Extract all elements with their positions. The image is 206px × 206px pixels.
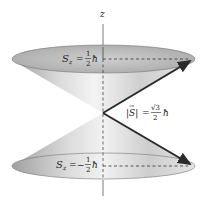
svg-text:S: S <box>62 53 69 64</box>
svg-text:−: − <box>77 160 85 170</box>
svg-text:=: = <box>69 160 77 170</box>
svg-text:1: 1 <box>86 50 90 58</box>
svg-text:√3: √3 <box>151 104 160 112</box>
svg-text:1: 1 <box>86 156 90 164</box>
diagram-canvas: z S z = 1 2 ħ S z = − 1 2 ħ |S| → = √3 2… <box>0 0 206 206</box>
svg-text:ħ: ħ <box>92 54 98 64</box>
svg-text:S: S <box>56 159 63 170</box>
svg-text:|S|: |S| <box>126 108 138 119</box>
svg-text:2: 2 <box>86 166 90 174</box>
svg-text:=: = <box>142 108 150 118</box>
spin-magnitude-label: |S| → = √3 2 ħ <box>126 102 169 122</box>
svg-text:2: 2 <box>153 114 157 122</box>
svg-text:2: 2 <box>86 60 90 68</box>
svg-text:ħ: ħ <box>163 108 169 118</box>
svg-text:=: = <box>76 54 84 64</box>
z-axis-label: z <box>99 9 105 19</box>
svg-text:ħ: ħ <box>92 160 98 170</box>
vector-arrow-icon: → <box>129 102 134 109</box>
spin-cone-diagram: z S z = 1 2 ħ S z = − 1 2 ħ |S| → = √3 2… <box>0 0 206 206</box>
